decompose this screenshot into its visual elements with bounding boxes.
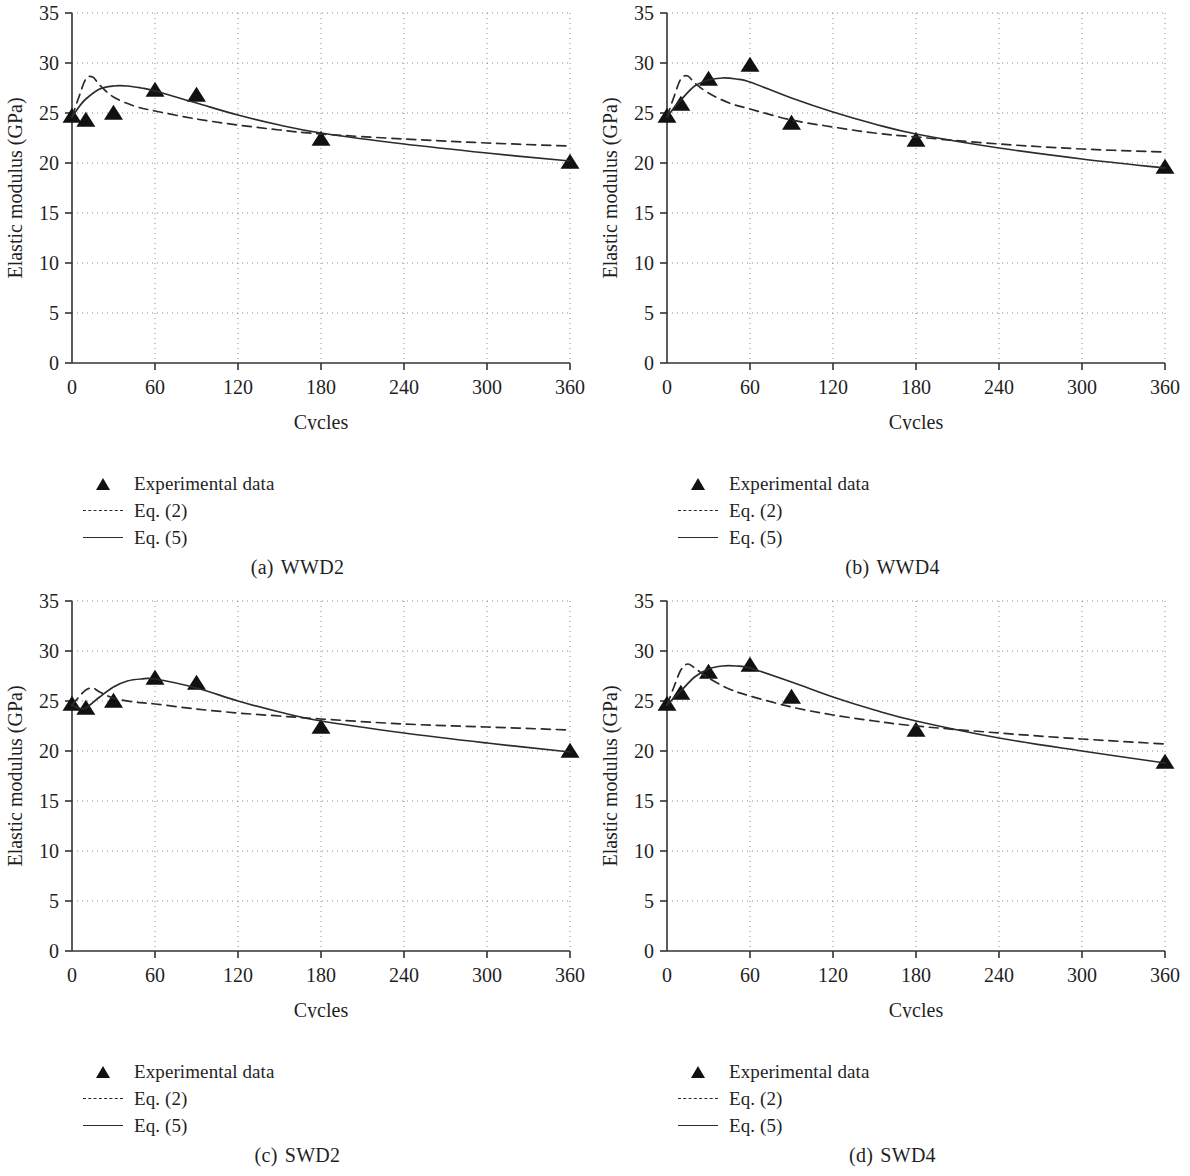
svg-text:30: 30: [39, 52, 59, 74]
svg-text:240: 240: [389, 376, 419, 398]
svg-text:300: 300: [1067, 376, 1097, 398]
svg-text:120: 120: [223, 376, 253, 398]
svg-text:360: 360: [1150, 964, 1180, 986]
legend-item-experimental: Experimental data: [667, 1058, 987, 1085]
svg-text:0: 0: [67, 964, 77, 986]
legend-b: Experimental data Eq. (2) Eq. (5): [667, 470, 987, 551]
svg-text:60: 60: [740, 964, 760, 986]
svg-text:20: 20: [634, 152, 654, 174]
panel-a: 05101520253035060120180240300360CyclesEl…: [0, 0, 595, 588]
svg-text:10: 10: [634, 252, 654, 274]
svg-text:0: 0: [49, 940, 59, 962]
svg-text:180: 180: [901, 376, 931, 398]
legend-label-experimental: Experimental data: [729, 473, 869, 495]
legend-item-eq5: Eq. (5): [667, 524, 987, 551]
svg-text:300: 300: [1067, 964, 1097, 986]
legend-item-eq2: Eq. (2): [667, 497, 987, 524]
legend-d: Experimental data Eq. (2) Eq. (5): [667, 1058, 987, 1139]
svg-text:25: 25: [39, 102, 59, 124]
svg-text:300: 300: [472, 376, 502, 398]
svg-text:0: 0: [644, 940, 654, 962]
triangle-marker-icon: [72, 1063, 134, 1081]
legend-c: Experimental data Eq. (2) Eq. (5): [72, 1058, 392, 1139]
svg-text:0: 0: [67, 376, 77, 398]
solid-line-icon: [667, 529, 729, 547]
svg-text:Elastic modulus (GPa): Elastic modulus (GPa): [4, 97, 27, 278]
legend-label-eq2: Eq. (2): [134, 1088, 187, 1110]
caption-label-a: WWD2: [281, 556, 344, 578]
svg-text:180: 180: [306, 376, 336, 398]
svg-text:Cycles: Cycles: [294, 999, 349, 1018]
svg-text:Elastic modulus (GPa): Elastic modulus (GPa): [599, 685, 622, 866]
triangle-marker-icon: [667, 1063, 729, 1081]
caption-d: (d)SWD4: [595, 1144, 1190, 1167]
triangle-marker-icon: [667, 475, 729, 493]
svg-text:5: 5: [49, 890, 59, 912]
legend-item-eq5: Eq. (5): [667, 1112, 987, 1139]
caption-b: (b)WWD4: [595, 556, 1190, 579]
legend-label-experimental: Experimental data: [134, 473, 274, 495]
caption-index-b: (b): [845, 556, 869, 578]
svg-text:20: 20: [634, 740, 654, 762]
svg-text:360: 360: [1150, 376, 1180, 398]
chart-d: 05101520253035060120180240300360CyclesEl…: [595, 588, 1190, 1018]
svg-text:30: 30: [634, 52, 654, 74]
svg-text:360: 360: [555, 376, 585, 398]
legend-label-eq5: Eq. (5): [134, 1115, 187, 1137]
legend-label-eq2: Eq. (2): [134, 500, 187, 522]
solid-line-icon: [667, 1117, 729, 1135]
figure-four-panel-elastic-modulus: 05101520253035060120180240300360CyclesEl…: [0, 0, 1190, 1176]
svg-text:180: 180: [306, 964, 336, 986]
chart-b: 05101520253035060120180240300360CyclesEl…: [595, 0, 1190, 430]
svg-text:20: 20: [39, 740, 59, 762]
svg-text:20: 20: [39, 152, 59, 174]
svg-text:Cycles: Cycles: [889, 999, 944, 1018]
svg-text:240: 240: [984, 964, 1014, 986]
svg-text:180: 180: [901, 964, 931, 986]
svg-text:10: 10: [39, 252, 59, 274]
caption-label-d: SWD4: [880, 1144, 936, 1166]
svg-text:240: 240: [984, 376, 1014, 398]
svg-text:15: 15: [39, 202, 59, 224]
legend-item-eq5: Eq. (5): [72, 1112, 392, 1139]
legend-label-eq5: Eq. (5): [134, 527, 187, 549]
svg-text:Elastic modulus (GPa): Elastic modulus (GPa): [599, 97, 622, 278]
caption-label-b: WWD4: [876, 556, 939, 578]
svg-text:120: 120: [223, 964, 253, 986]
svg-text:240: 240: [389, 964, 419, 986]
legend-label-experimental: Experimental data: [134, 1061, 274, 1083]
chart-c: 05101520253035060120180240300360CyclesEl…: [0, 588, 595, 1018]
svg-text:35: 35: [39, 590, 59, 612]
svg-text:Cycles: Cycles: [294, 411, 349, 430]
svg-text:Elastic modulus (GPa): Elastic modulus (GPa): [4, 685, 27, 866]
svg-text:300: 300: [472, 964, 502, 986]
svg-text:60: 60: [145, 376, 165, 398]
svg-text:0: 0: [662, 964, 672, 986]
legend-label-eq2: Eq. (2): [729, 1088, 782, 1110]
legend-label-eq5: Eq. (5): [729, 1115, 782, 1137]
caption-index-c: (c): [255, 1144, 278, 1166]
svg-text:0: 0: [662, 376, 672, 398]
legend-item-experimental: Experimental data: [72, 470, 392, 497]
svg-text:30: 30: [39, 640, 59, 662]
dashed-line-icon: [667, 1090, 729, 1108]
svg-text:15: 15: [634, 790, 654, 812]
legend-item-eq5: Eq. (5): [72, 524, 392, 551]
chart-a: 05101520253035060120180240300360CyclesEl…: [0, 0, 595, 430]
legend-item-eq2: Eq. (2): [72, 497, 392, 524]
triangle-marker-icon: [72, 475, 134, 493]
panel-d: 05101520253035060120180240300360CyclesEl…: [595, 588, 1190, 1176]
svg-text:5: 5: [644, 302, 654, 324]
svg-text:15: 15: [39, 790, 59, 812]
caption-index-a: (a): [251, 556, 274, 578]
svg-text:60: 60: [145, 964, 165, 986]
dashed-line-icon: [667, 502, 729, 520]
legend-label-experimental: Experimental data: [729, 1061, 869, 1083]
legend-a: Experimental data Eq. (2) Eq. (5): [72, 470, 392, 551]
panel-c: 05101520253035060120180240300360CyclesEl…: [0, 588, 595, 1176]
legend-item-eq2: Eq. (2): [72, 1085, 392, 1112]
legend-item-experimental: Experimental data: [667, 470, 987, 497]
svg-text:25: 25: [634, 102, 654, 124]
caption-c: (c)SWD2: [0, 1144, 595, 1167]
solid-line-icon: [72, 1117, 134, 1135]
